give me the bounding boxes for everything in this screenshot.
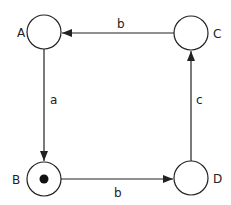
node-a xyxy=(27,15,61,49)
node-c-label: C xyxy=(213,27,221,41)
token-dot xyxy=(40,175,49,184)
state-diagram: A C B D a b c b xyxy=(0,0,231,205)
node-c xyxy=(174,16,208,50)
edge-label-b-top: b xyxy=(117,17,125,31)
node-a-label: A xyxy=(17,26,26,40)
edge-label-b-bottom: b xyxy=(114,186,122,200)
node-d xyxy=(174,161,208,195)
node-d-label: D xyxy=(213,172,222,186)
edge-label-a: a xyxy=(50,93,57,107)
node-b-label: B xyxy=(12,173,20,187)
diagram-canvas: A C B D a b c b xyxy=(0,0,231,205)
edge-label-c: c xyxy=(196,93,203,107)
